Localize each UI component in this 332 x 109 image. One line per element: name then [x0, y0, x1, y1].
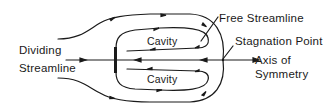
outer-streamline-lower: [58, 60, 223, 102]
arrow-icon: [80, 58, 86, 62]
cavity-upper-label: Cavity: [147, 35, 177, 48]
free-streamline-label: Free Streamline: [219, 12, 304, 25]
leader-stagnation-point: [223, 46, 233, 59]
dividing-streamline-label-line2: Streamline: [19, 62, 76, 75]
arrow-icon: [154, 28, 159, 30]
arrow-icon: [202, 23, 207, 27]
stagnation-point-label: Stagnation Point: [235, 35, 323, 48]
plate: [114, 47, 117, 73]
arrow-icon: [201, 58, 207, 62]
arrow-icon: [110, 97, 115, 99]
axis-of-symmetry-label-line2: Symmetry: [255, 68, 308, 81]
arrow-icon: [110, 17, 115, 20]
arrow-icon: [157, 90, 162, 92]
cavity-loop-upper: [127, 48, 198, 51]
arrow-icon: [135, 58, 141, 62]
dividing-streamline-label-line1: Dividing: [19, 44, 62, 57]
cavity-lower-label: Cavity: [147, 73, 177, 86]
arrow-icon: [202, 92, 206, 96]
arrow-icon: [150, 48, 155, 50]
axis-of-symmetry-label-line1: Axis of: [255, 54, 291, 67]
cavity-loop-lower: [127, 69, 198, 71]
stagnation-point: [222, 59, 224, 61]
outer-streamline-upper: [58, 14, 223, 60]
arrow-icon: [147, 68, 152, 70]
